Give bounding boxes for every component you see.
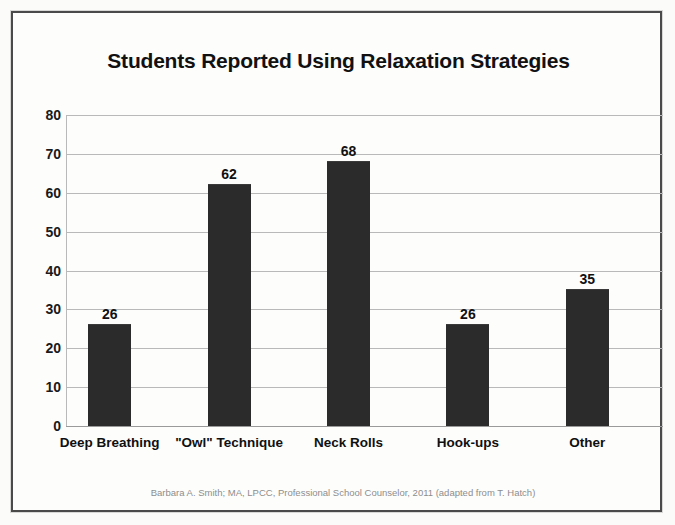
- x-axis-tick-labels: Deep Breathing"Owl" TechniqueNeck RollsH…: [66, 435, 663, 457]
- y-tick-label-0: 0: [15, 418, 61, 434]
- x-tick-label: Other: [517, 435, 657, 450]
- y-tick-label-40: 40: [15, 263, 61, 279]
- bar-series: 2662682635: [66, 115, 663, 426]
- bar-value-label: 26: [80, 306, 140, 325]
- bar: [446, 324, 489, 426]
- bar-value-label: 35: [557, 271, 617, 290]
- y-tick-label-20: 20: [15, 340, 61, 356]
- chart-title: Students Reported Using Relaxation Strat…: [43, 49, 634, 73]
- y-tick-label-50: 50: [15, 224, 61, 240]
- bar: [88, 324, 131, 426]
- bar: [327, 161, 370, 426]
- bar: [208, 184, 251, 426]
- y-tick-label-30: 30: [15, 301, 61, 317]
- chart-figure: Students Reported Using Relaxation Strat…: [0, 0, 675, 525]
- y-tick-label-10: 10: [15, 379, 61, 395]
- bar-value-label: 26: [438, 306, 498, 325]
- bar-value-label: 62: [199, 166, 259, 185]
- y-axis-tick-labels: 80706050403020100: [13, 115, 61, 426]
- gridline-0: [66, 426, 663, 427]
- y-tick-label-70: 70: [15, 146, 61, 162]
- y-tick-label-60: 60: [15, 185, 61, 201]
- chart-frame-border: Students Reported Using Relaxation Strat…: [11, 11, 662, 512]
- y-tick-label-80: 80: [15, 107, 61, 123]
- chart-attribution-note: Barbara A. Smith; MA, LPCC, Professional…: [43, 487, 643, 498]
- bar-value-label: 68: [319, 143, 379, 162]
- bar: [566, 289, 609, 426]
